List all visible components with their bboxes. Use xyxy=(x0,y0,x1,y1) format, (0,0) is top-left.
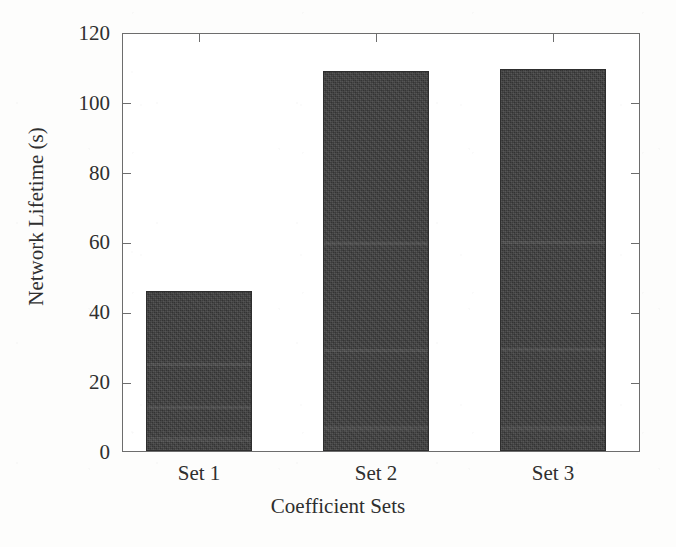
y-tick-label-120: 120 xyxy=(62,23,110,44)
y-axis-title-text: Network Lifetime (s) xyxy=(24,127,48,305)
y-tick-label-20: 20 xyxy=(62,372,110,393)
bar-scan-band xyxy=(501,426,605,431)
y-tick-mark-right-100 xyxy=(631,103,639,104)
bar-scan-band xyxy=(501,241,605,244)
bar-scan-band xyxy=(147,406,251,409)
x-tick-label-set-2: Set 2 xyxy=(315,463,437,484)
y-tick-mark-right-80 xyxy=(631,173,639,174)
x-axis-title: Coefficient Sets xyxy=(0,494,676,519)
bar-scan-band xyxy=(324,242,428,245)
bar-set-2[interactable] xyxy=(323,71,429,452)
x-tick-label-set-1: Set 1 xyxy=(138,463,260,484)
bar-chart-figure: Network Lifetime (s) 120 100 80 60 40 20… xyxy=(0,0,676,547)
bar-scan-band xyxy=(501,348,605,351)
y-tick-mark-right-40 xyxy=(631,313,639,314)
y-tick-mark-60 xyxy=(123,243,131,244)
y-tick-label-40: 40 xyxy=(62,302,110,323)
bar-scan-band xyxy=(147,437,251,442)
y-tick-mark-right-20 xyxy=(631,383,639,384)
y-tick-label-80: 80 xyxy=(62,163,110,184)
x-tick-mark-top-set-2 xyxy=(376,34,377,42)
y-tick-mark-20 xyxy=(123,383,131,384)
y-tick-mark-80 xyxy=(123,173,131,174)
y-tick-label-100: 100 xyxy=(62,93,110,114)
y-axis-title: Network Lifetime (s) xyxy=(24,77,49,357)
bar-scan-band xyxy=(147,363,251,366)
x-tick-label-set-3: Set 3 xyxy=(492,463,614,484)
bar-scan-band xyxy=(324,349,428,352)
y-tick-label-60: 60 xyxy=(62,232,110,253)
x-tick-mark-top-set-3 xyxy=(553,34,554,42)
y-tick-label-0: 0 xyxy=(62,442,110,463)
bar-set-1[interactable] xyxy=(146,291,252,451)
x-tick-mark-top-set-1 xyxy=(199,34,200,42)
bar-scan-band xyxy=(324,426,428,431)
y-tick-mark-right-60 xyxy=(631,243,639,244)
y-tick-mark-100 xyxy=(123,103,131,104)
bar-set-3[interactable] xyxy=(500,69,606,451)
x-axis-title-text: Coefficient Sets xyxy=(271,494,405,518)
plot-area xyxy=(122,33,640,452)
y-tick-mark-40 xyxy=(123,313,131,314)
